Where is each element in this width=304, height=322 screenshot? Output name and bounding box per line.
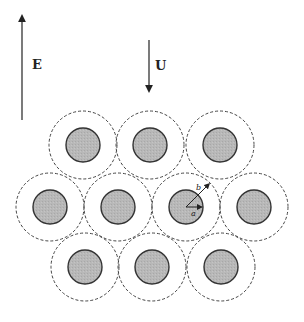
particle (135, 250, 169, 284)
particle (33, 190, 67, 224)
particle (204, 250, 238, 284)
cell (187, 233, 255, 301)
electric-field-arrow: E (22, 18, 42, 120)
particle (68, 250, 102, 284)
outer-radius-label: b (196, 183, 201, 192)
cell: ab (152, 173, 220, 241)
particle (66, 128, 100, 162)
cell (118, 233, 186, 301)
cell (186, 111, 254, 179)
particle-cells: ab (16, 111, 288, 301)
particle (101, 190, 135, 224)
particle (203, 128, 237, 162)
particle (133, 128, 167, 162)
electric-field-label: E (32, 57, 42, 72)
velocity-arrow: U (149, 40, 167, 89)
cell (84, 173, 152, 241)
inner-radius-label: a (191, 209, 196, 218)
velocity-label: U (155, 58, 167, 73)
cell (220, 173, 288, 241)
particle (237, 190, 271, 224)
cell (49, 111, 117, 179)
cell (51, 233, 119, 301)
cell (16, 173, 84, 241)
cell-model-diagram: E U ab (0, 0, 304, 322)
cell (116, 111, 184, 179)
